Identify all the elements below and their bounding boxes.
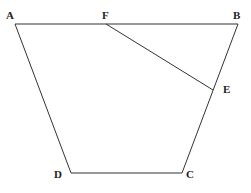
trapezoid-abcd — [15, 24, 238, 173]
label-e: E — [223, 83, 230, 95]
label-c: C — [186, 168, 194, 180]
label-f: F — [102, 9, 109, 21]
label-d: D — [54, 168, 62, 180]
label-a: A — [6, 9, 14, 21]
label-b: B — [233, 9, 241, 21]
segment-fe — [106, 24, 213, 90]
geometry-diagram: A F B E D C — [0, 0, 251, 193]
